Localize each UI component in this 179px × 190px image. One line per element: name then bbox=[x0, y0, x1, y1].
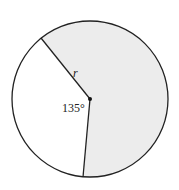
center-point bbox=[88, 97, 92, 101]
radius-label: r bbox=[73, 66, 78, 80]
circle-diagram: r 135° bbox=[0, 0, 179, 190]
angle-label: 135° bbox=[62, 101, 85, 115]
